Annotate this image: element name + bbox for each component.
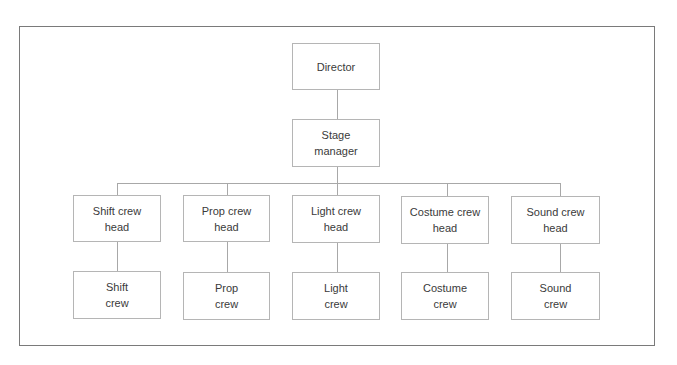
connector-costume-head-crew xyxy=(447,243,448,272)
node-label: Sound crew head xyxy=(526,204,584,236)
node-light-crew-head: Light crew head xyxy=(292,195,380,243)
connector-light-head-crew xyxy=(337,242,338,272)
connector-bus-shift-head xyxy=(117,183,118,195)
connector-stage-manager-bus xyxy=(337,166,338,184)
node-label: Stage manager xyxy=(314,127,357,159)
node-label: Sound crew xyxy=(540,280,572,312)
connector-director-stage-manager xyxy=(337,89,338,119)
node-sound-crew-head: Sound crew head xyxy=(511,196,600,244)
node-label: Light crew head xyxy=(311,203,361,235)
node-shift-crew-head: Shift crew head xyxy=(73,195,161,242)
node-label: Shift crew xyxy=(105,279,128,311)
node-label: Costume crew xyxy=(423,280,467,312)
node-label: Prop crew head xyxy=(202,203,252,235)
node-shift-crew: Shift crew xyxy=(73,271,161,319)
connector-horizontal-bus xyxy=(117,183,561,184)
node-prop-crew: Prop crew xyxy=(183,272,270,320)
connector-bus-costume-head xyxy=(447,183,448,196)
node-prop-crew-head: Prop crew head xyxy=(183,195,270,242)
node-costume-crew: Costume crew xyxy=(401,272,489,320)
node-label: Prop crew xyxy=(215,280,238,312)
node-stage-manager: Stage manager xyxy=(292,119,380,167)
connector-shift-head-crew xyxy=(117,241,118,271)
connector-bus-prop-head xyxy=(227,183,228,195)
node-sound-crew: Sound crew xyxy=(511,272,600,320)
connector-bus-sound-head xyxy=(560,183,561,196)
node-costume-crew-head: Costume crew head xyxy=(401,196,489,244)
node-director: Director xyxy=(292,43,380,90)
connector-prop-head-crew xyxy=(227,241,228,272)
node-label: Shift crew head xyxy=(93,203,141,235)
connector-sound-head-crew xyxy=(560,243,561,272)
node-label: Light crew xyxy=(324,280,348,312)
node-light-crew: Light crew xyxy=(292,272,380,320)
node-label: Director xyxy=(317,59,356,75)
node-label: Costume crew head xyxy=(410,204,480,236)
connector-bus-light-head xyxy=(337,183,338,195)
